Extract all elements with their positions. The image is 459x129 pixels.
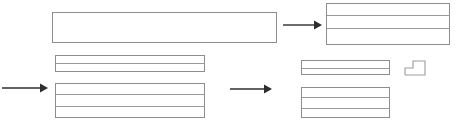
arrow-middle-head-icon [264, 85, 272, 94]
diagram-canvas [0, 0, 459, 129]
arrow-top[interactable] [283, 21, 322, 30]
block-bottom-left-outline [56, 84, 205, 118]
block-mid-left-strip[interactable] [56, 56, 205, 72]
block-top-right[interactable] [327, 4, 450, 45]
block-bottom-right-outline [302, 88, 390, 118]
arrow-left-in[interactable] [2, 84, 48, 93]
block-mid-right-strip-outline [302, 61, 390, 75]
step-shape[interactable] [405, 61, 425, 75]
block-top-left-outline [53, 13, 277, 43]
block-top-left[interactable] [53, 13, 277, 43]
block-top-right-outline [327, 4, 450, 45]
arrow-left-in-head-icon [40, 84, 48, 93]
block-mid-right-strip[interactable] [302, 61, 390, 75]
arrow-middle[interactable] [230, 85, 272, 94]
staircase-step-icon [405, 61, 425, 75]
block-bottom-right[interactable] [302, 88, 390, 118]
block-bottom-left[interactable] [56, 84, 205, 118]
diagram-svg [0, 0, 459, 129]
arrow-top-head-icon [314, 21, 322, 30]
